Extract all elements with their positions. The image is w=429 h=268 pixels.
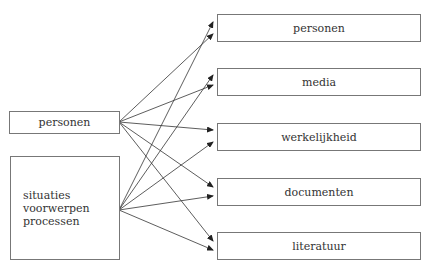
tgt-media-box: media: [217, 68, 421, 96]
box-label: personen: [39, 116, 91, 129]
arrow-src-personen-to-tgt-personen: [119, 34, 213, 122]
box-label: situaties: [23, 189, 70, 202]
arrow-src-personen-to-tgt-documenten: [119, 122, 213, 187]
box-label: processen: [23, 215, 79, 228]
arrow-src-situaties-to-tgt-werkelijkheid: [119, 142, 213, 210]
arrow-src-situaties-to-tgt-literatuur: [119, 210, 213, 250]
src-personen-box: personen: [9, 111, 120, 134]
arrow-src-personen-to-tgt-werkelijkheid: [119, 122, 213, 130]
box-label: personen: [293, 22, 345, 35]
arrow-src-situaties-to-tgt-documenten: [119, 196, 213, 210]
tgt-personen-box: personen: [217, 14, 421, 42]
tgt-documenten-box: documenten: [217, 178, 421, 206]
box-label: literatuur: [292, 240, 346, 253]
box-label: voorwerpen: [23, 202, 90, 215]
arrow-src-situaties-to-tgt-media: [119, 75, 213, 210]
tgt-literatuur-box: literatuur: [217, 232, 421, 260]
tgt-werkelijkheid-box: werkelijkheid: [217, 123, 421, 151]
src-situaties-box: situatiesvoorwerpenprocessen: [10, 156, 120, 260]
box-label: werkelijkheid: [281, 131, 357, 144]
box-label: media: [302, 76, 336, 89]
box-label: documenten: [285, 186, 354, 199]
